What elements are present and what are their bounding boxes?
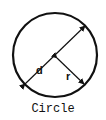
diameter-label: d bbox=[36, 64, 43, 76]
radius-line bbox=[57, 58, 84, 84]
diagram-caption: Circle bbox=[0, 102, 106, 116]
diameter-line bbox=[25, 26, 85, 84]
radius-label: r bbox=[66, 70, 71, 82]
